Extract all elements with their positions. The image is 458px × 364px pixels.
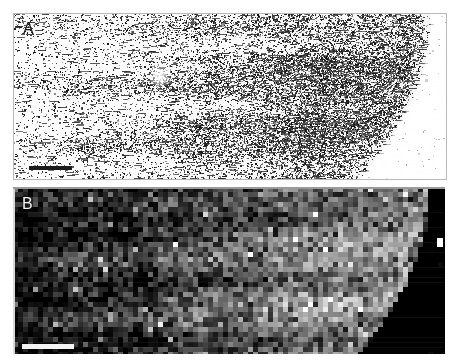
panel-b-top-edge: [13, 187, 445, 189]
panel-a: A: [13, 13, 447, 180]
panel-b-left-edge: [13, 187, 15, 354]
panel-b-scale-bar: [22, 344, 74, 349]
panel-a-image: [14, 14, 446, 179]
panel-b-label: B: [22, 196, 33, 212]
panel-b: B: [13, 187, 445, 354]
panel-a-scale-bar: [29, 166, 72, 170]
panel-a-label: A: [23, 21, 34, 37]
figure-root: A B: [0, 0, 458, 364]
panel-b-image: [13, 187, 445, 354]
panel-b-bright-spot-marker: [437, 238, 443, 247]
